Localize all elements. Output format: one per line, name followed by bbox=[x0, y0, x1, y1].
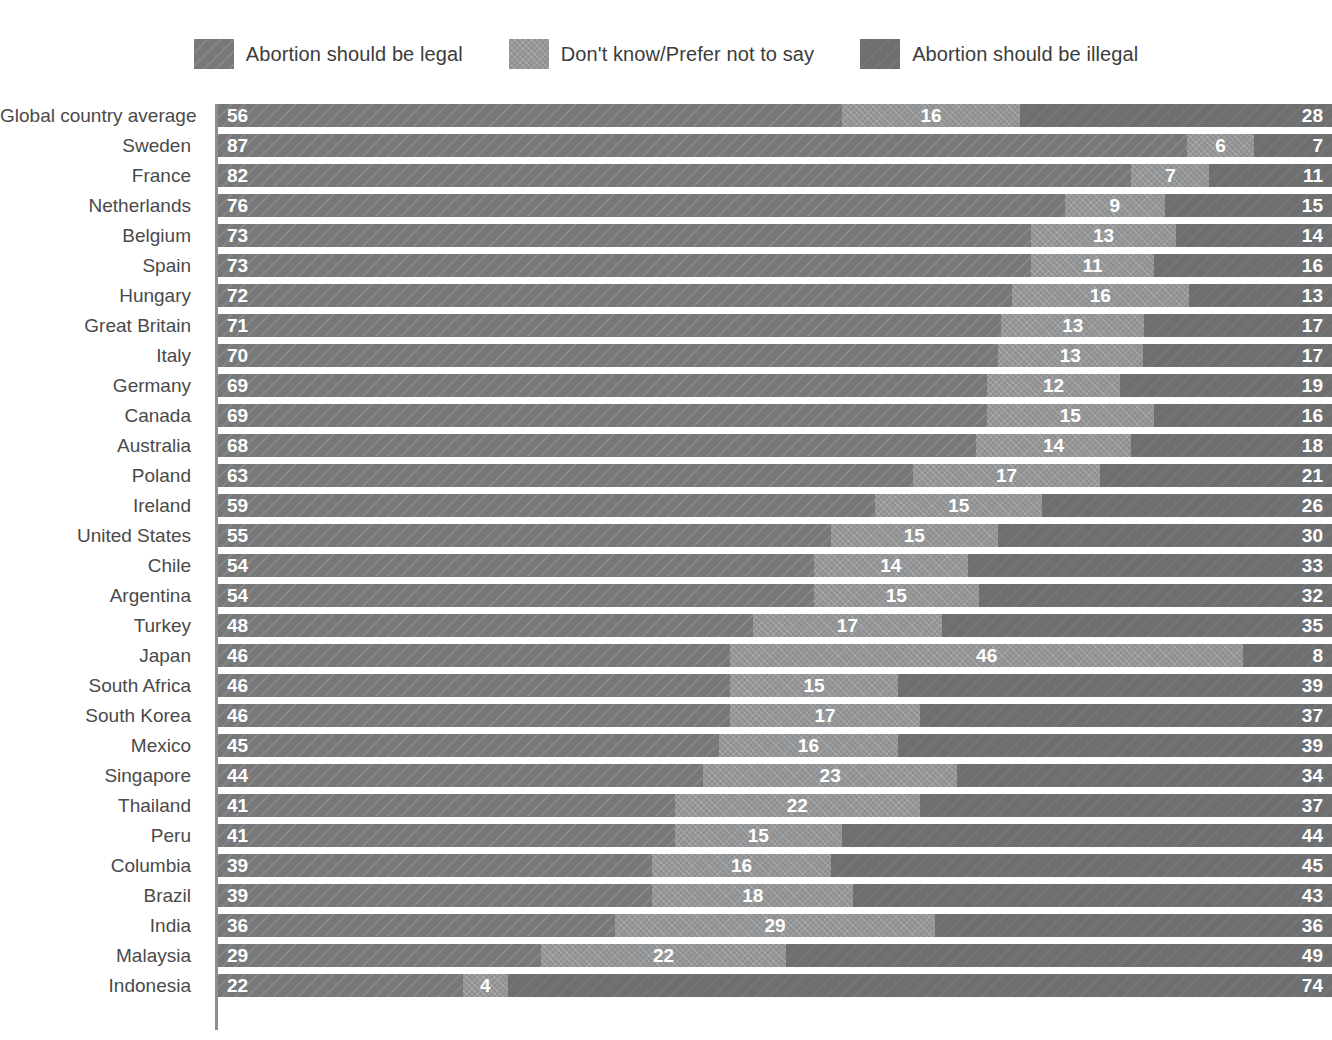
bar-segment-dont_know: 46 bbox=[730, 644, 1242, 667]
bar-row: India362936 bbox=[0, 914, 1332, 944]
bar-segment-value: 18 bbox=[1302, 434, 1332, 457]
bar-segment-value: 16 bbox=[729, 854, 754, 877]
stacked-bar: 46468 bbox=[218, 644, 1332, 667]
bar-segment-value: 11 bbox=[1080, 254, 1104, 277]
bar-segment-value: 73 bbox=[218, 254, 248, 277]
bar-row: Mexico451639 bbox=[0, 734, 1332, 764]
stacked-bar: 451639 bbox=[218, 734, 1332, 757]
bar-row: South Korea461737 bbox=[0, 704, 1332, 734]
bar-row: Belgium731314 bbox=[0, 224, 1332, 254]
bar-segment-dont_know: 13 bbox=[998, 344, 1143, 367]
row-label-germany: Germany bbox=[0, 374, 203, 398]
bar-segment-value: 6 bbox=[1213, 134, 1228, 157]
row-label-indonesia: Indonesia bbox=[0, 974, 203, 998]
legend-item-illegal[interactable]: Abortion should be illegal bbox=[860, 39, 1138, 69]
bar-segment-dont_know: 22 bbox=[541, 944, 786, 967]
legend-item-dont_know[interactable]: Don't know/Prefer not to say bbox=[509, 39, 814, 69]
stacked-bar: 82711 bbox=[218, 164, 1332, 187]
bar-row: Turkey481735 bbox=[0, 614, 1332, 644]
bar-segment-legal: 45 bbox=[218, 734, 719, 757]
bar-segment-illegal: 33 bbox=[968, 554, 1332, 577]
bar-row: Columbia391645 bbox=[0, 854, 1332, 884]
bar-segment-dont_know: 17 bbox=[753, 614, 942, 637]
bar-segment-value: 15 bbox=[902, 524, 927, 547]
bar-segment-illegal: 45 bbox=[831, 854, 1332, 877]
bar-segment-illegal: 32 bbox=[979, 584, 1332, 607]
bar-segment-illegal: 21 bbox=[1100, 464, 1332, 487]
bar-segment-legal: 44 bbox=[218, 764, 703, 787]
bar-segment-value: 49 bbox=[1302, 944, 1332, 967]
stacked-bar: 22474 bbox=[218, 974, 1332, 997]
bar-segment-value: 46 bbox=[974, 644, 999, 667]
bar-segment-value: 14 bbox=[1041, 434, 1066, 457]
bar-segment-legal: 69 bbox=[218, 374, 987, 397]
bar-segment-illegal: 39 bbox=[898, 674, 1332, 697]
bar-segment-illegal: 28 bbox=[1020, 104, 1332, 127]
bar-segment-value: 46 bbox=[218, 704, 248, 727]
bar-segment-dont_know: 15 bbox=[875, 494, 1042, 517]
bar-segment-dont_know: 22 bbox=[675, 794, 920, 817]
bar-segment-illegal: 18 bbox=[1131, 434, 1332, 457]
bar-segment-value: 28 bbox=[1302, 104, 1332, 127]
bar-segment-value: 16 bbox=[918, 104, 943, 127]
bar-segment-illegal: 74 bbox=[508, 974, 1332, 997]
bar-segment-dont_know: 15 bbox=[814, 584, 979, 607]
row-label-global-country-average: Global country average bbox=[0, 104, 203, 128]
bar-segment-dont_know: 16 bbox=[842, 104, 1020, 127]
bar-segment-value: 55 bbox=[218, 524, 248, 547]
bar-segment-legal: 68 bbox=[218, 434, 976, 457]
bar-segment-value: 72 bbox=[218, 284, 248, 307]
row-label-peru: Peru bbox=[0, 824, 203, 848]
row-label-italy: Italy bbox=[0, 344, 203, 368]
bar-row: Singapore442334 bbox=[0, 764, 1332, 794]
row-label-japan: Japan bbox=[0, 644, 203, 668]
bar-segment-dont_know: 13 bbox=[1001, 314, 1144, 337]
bar-segment-value: 22 bbox=[651, 944, 676, 967]
bar-row: Spain731116 bbox=[0, 254, 1332, 284]
bar-segment-value: 69 bbox=[218, 374, 248, 397]
bar-row: Germany691219 bbox=[0, 374, 1332, 404]
bar-segment-value: 16 bbox=[1088, 284, 1113, 307]
bar-segment-value: 14 bbox=[1302, 224, 1332, 247]
bar-segment-dont_know: 7 bbox=[1131, 164, 1209, 187]
row-label-hungary: Hungary bbox=[0, 284, 203, 308]
bar-row: Sweden8767 bbox=[0, 134, 1332, 164]
bar-segment-illegal: 7 bbox=[1254, 134, 1332, 157]
bar-segment-illegal: 34 bbox=[957, 764, 1332, 787]
bar-segment-value: 39 bbox=[1302, 674, 1332, 697]
bar-segment-legal: 39 bbox=[218, 854, 652, 877]
bar-segment-value: 9 bbox=[1107, 194, 1122, 217]
stacked-bar: 731116 bbox=[218, 254, 1332, 277]
bar-segment-dont_know: 23 bbox=[703, 764, 957, 787]
bar-segment-dont_know: 15 bbox=[831, 524, 998, 547]
bar-segment-illegal: 39 bbox=[898, 734, 1332, 757]
bar-segment-value: 11 bbox=[1303, 164, 1332, 187]
bar-segment-value: 17 bbox=[1302, 344, 1332, 367]
bar-segment-legal: 39 bbox=[218, 884, 652, 907]
bar-segment-value: 29 bbox=[762, 914, 787, 937]
bar-segment-value: 33 bbox=[1302, 554, 1332, 577]
row-label-great-britain: Great Britain bbox=[0, 314, 203, 338]
bar-segment-value: 46 bbox=[218, 644, 248, 667]
bar-segment-value: 15 bbox=[746, 824, 771, 847]
stacked-bar: 292249 bbox=[218, 944, 1332, 967]
row-label-thailand: Thailand bbox=[0, 794, 203, 818]
bar-segment-legal: 87 bbox=[218, 134, 1187, 157]
bar-segment-dont_know: 15 bbox=[987, 404, 1154, 427]
stacked-bar: 701317 bbox=[218, 344, 1332, 367]
stacked-bar: 391843 bbox=[218, 884, 1332, 907]
bar-segment-legal: 59 bbox=[218, 494, 875, 517]
bar-row: South Africa461539 bbox=[0, 674, 1332, 704]
row-label-turkey: Turkey bbox=[0, 614, 203, 638]
row-label-mexico: Mexico bbox=[0, 734, 203, 758]
legend-item-legal[interactable]: Abortion should be legal bbox=[194, 39, 463, 69]
row-label-singapore: Singapore bbox=[0, 764, 203, 788]
bar-segment-value: 70 bbox=[218, 344, 248, 367]
stacked-bar: 691516 bbox=[218, 404, 1332, 427]
bar-segment-value: 13 bbox=[1060, 314, 1085, 337]
bar-segment-legal: 48 bbox=[218, 614, 753, 637]
bar-segment-value: 74 bbox=[1302, 974, 1332, 997]
bar-row: Australia681418 bbox=[0, 434, 1332, 464]
stacked-bar: 391645 bbox=[218, 854, 1332, 877]
row-label-ireland: Ireland bbox=[0, 494, 203, 518]
